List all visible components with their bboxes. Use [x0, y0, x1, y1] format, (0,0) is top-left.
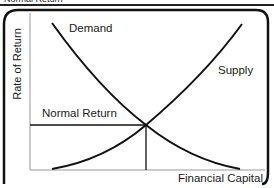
supply-label: Supply	[218, 64, 253, 76]
normal-return-label: Normal Return	[42, 107, 117, 119]
demand-label: Demand	[69, 22, 112, 34]
supply-demand-chart: Normal Return Rate of Return Demand Supp…	[0, 0, 274, 188]
cropped-title: Normal Return	[4, 0, 63, 4]
x-axis-label: Financial Capital	[178, 172, 263, 184]
chart-frame	[4, 10, 268, 184]
y-axis-label: Rate of Return	[11, 28, 23, 100]
supply-curve	[52, 24, 242, 169]
